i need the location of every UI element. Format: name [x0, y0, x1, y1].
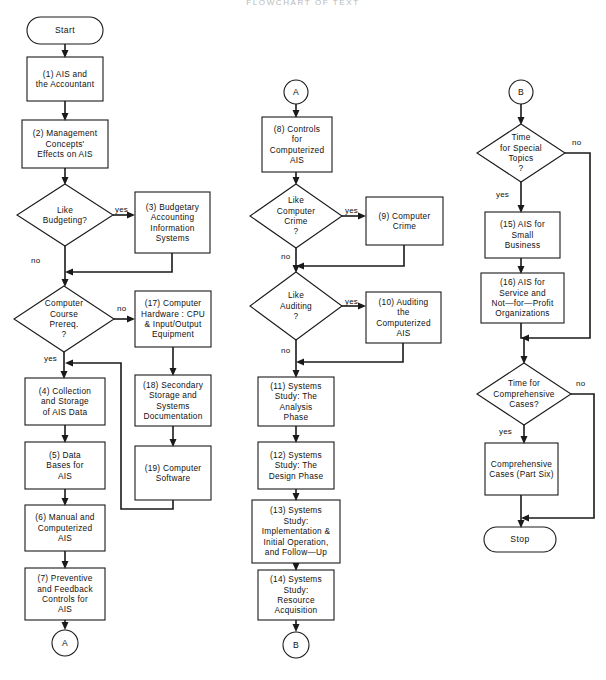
- node-6-manual-computerized[interactable]: [25, 505, 105, 551]
- decision-computer-course-prereq[interactable]: [14, 286, 114, 352]
- edge-label-cases-yes: yes: [499, 427, 512, 436]
- node-8-controls-computerized-ais[interactable]: [262, 117, 332, 172]
- middle-column-shapes: [250, 80, 443, 658]
- connector-a-in[interactable]: [284, 80, 308, 104]
- connector-b-in[interactable]: [509, 80, 533, 104]
- edge-label-special-yes: yes: [496, 190, 509, 199]
- flowchart-canvas: FLOWCHART OF TEXT: [0, 0, 606, 680]
- arrow-budgeting-no: [62, 279, 69, 287]
- node-15-ais-small-business[interactable]: [485, 212, 560, 258]
- node-11-systems-study-analysis[interactable]: [258, 377, 334, 426]
- node-17-computer-hardware[interactable]: [135, 291, 211, 347]
- arrow-7-to-connector-a: [62, 622, 69, 630]
- edge-label-cases-no: no: [576, 379, 585, 388]
- decision-like-computer-crime[interactable]: [250, 184, 342, 248]
- arrow-connector-b-to-special: [518, 117, 525, 125]
- node-1-ais-and-the-accountant[interactable]: [27, 57, 103, 101]
- decision-time-comprehensive-cases[interactable]: [477, 363, 571, 425]
- node-16-ais-service-nonprofit[interactable]: [481, 273, 564, 323]
- left-column-shapes: [14, 17, 211, 656]
- edge-label-audit-no: no: [281, 346, 290, 355]
- decision-time-for-special-topics[interactable]: [477, 124, 565, 182]
- edge-label-crime-no: no: [281, 252, 290, 261]
- edge-label-audit-yes: yes: [345, 297, 358, 306]
- node-13-systems-study-implementation[interactable]: [252, 500, 340, 563]
- edge-label-special-no: no: [572, 138, 581, 147]
- node-18-secondary-storage[interactable]: [135, 375, 211, 426]
- edge-3-loopback: [73, 253, 172, 272]
- node-14-systems-study-resource[interactable]: [258, 570, 334, 620]
- arrow-19-loopback: [65, 360, 73, 367]
- node-stop[interactable]: [484, 527, 556, 552]
- node-start[interactable]: [27, 17, 103, 44]
- right-column-shapes: [477, 80, 571, 552]
- node-20-comprehensive-cases[interactable]: [485, 443, 558, 495]
- decision-like-auditing[interactable]: [250, 272, 342, 340]
- arrow-budgeting-yes: [127, 212, 135, 219]
- edge-label-crime-yes: yes: [345, 206, 358, 215]
- arrow-2-to-budgeting: [62, 177, 69, 185]
- node-12-systems-study-design[interactable]: [258, 442, 334, 489]
- node-7-preventive-feedback[interactable]: [25, 568, 105, 620]
- connector-b-out[interactable]: [283, 632, 309, 658]
- connector-a-out[interactable]: [52, 630, 78, 656]
- arrow-crime-yes: [358, 213, 366, 220]
- arrow-10-loopback: [296, 359, 304, 366]
- arrow-crime-no: [293, 265, 300, 273]
- arrow-prereq-no: [127, 316, 135, 323]
- arrow-8-to-crime: [293, 177, 300, 185]
- edge-10-loopback: [304, 343, 403, 362]
- node-4-collection-storage[interactable]: [25, 378, 105, 425]
- arrow-14-to-connector-b: [293, 624, 300, 632]
- edge-label-course-no: no: [117, 304, 126, 313]
- node-3-budgetary-accounting[interactable]: [135, 192, 210, 253]
- node-19-computer-software[interactable]: [135, 446, 211, 500]
- arrow-16-to-cases: [521, 356, 528, 364]
- node-2-management-concepts[interactable]: [22, 120, 108, 168]
- arrow-3-loopback: [65, 269, 73, 276]
- edge-16-to-cases: [521, 323, 524, 357]
- node-9-computer-crime[interactable]: [366, 197, 443, 245]
- flowchart-svg: [0, 0, 606, 680]
- edge-9-loopback: [304, 245, 404, 266]
- node-5-data-bases[interactable]: [25, 442, 105, 489]
- decision-like-budgeting[interactable]: [17, 184, 113, 246]
- edge-label-budget-yes: yes: [115, 205, 128, 214]
- arrow-audit-yes: [358, 303, 366, 310]
- edge-label-budget-no: no: [31, 256, 40, 265]
- node-10-auditing-computerized-ais[interactable]: [366, 292, 441, 343]
- edge-label-course-yes: yes: [44, 354, 57, 363]
